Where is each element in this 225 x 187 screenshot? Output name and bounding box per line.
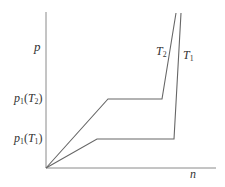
curve-label-sub: 2 (163, 50, 167, 59)
tick-label-p1-t1: p1(T1) (14, 132, 43, 146)
tick-arg: T (28, 131, 35, 145)
x-axis-label: n (190, 168, 196, 180)
curve-label-t1: T1 (183, 49, 194, 63)
curve-label-sub: 1 (190, 54, 194, 63)
tick-label-p1-t2: p1(T2) (14, 92, 43, 106)
tick-arg: T (28, 91, 35, 105)
curve-label-base: T (156, 44, 163, 58)
y-axis-label: p (34, 40, 41, 53)
curve-label-base: T (183, 48, 190, 62)
curve-t2 (46, 13, 176, 168)
curve-label-t2: T2 (156, 45, 167, 59)
